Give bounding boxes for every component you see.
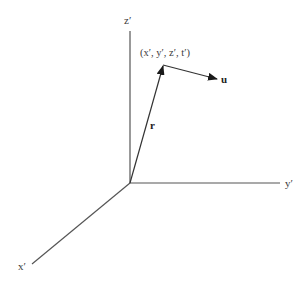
vector-r-label: r bbox=[150, 119, 155, 131]
coordinate-diagram: z′ y′ x′ (x′, y′, z′, t′) r u bbox=[0, 0, 307, 284]
x-axis bbox=[32, 183, 130, 264]
position-vector-r bbox=[130, 66, 163, 183]
velocity-vector-u bbox=[163, 65, 217, 79]
z-axis-label: z′ bbox=[124, 14, 131, 26]
x-axis-label: x′ bbox=[18, 260, 26, 272]
vector-u-label: u bbox=[221, 73, 227, 85]
event-point-label: (x′, y′, z′, t′) bbox=[140, 47, 191, 59]
y-axis-label: y′ bbox=[285, 177, 293, 189]
